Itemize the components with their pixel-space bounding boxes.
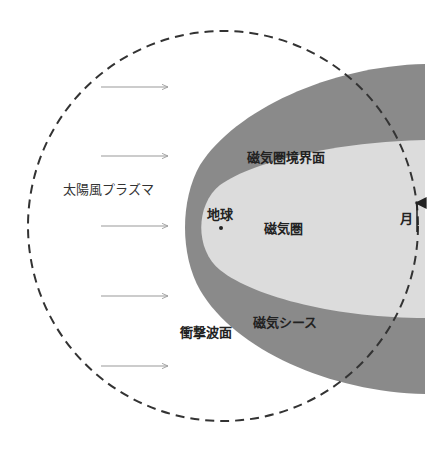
earth-dot: [219, 226, 223, 230]
magnetopause-label: 磁気圏境界面: [247, 151, 325, 165]
bow-shock-label: 衝撃波面: [180, 326, 232, 340]
magnetosphere-diagram: [0, 0, 439, 451]
magnetosphere-label: 磁気圏: [264, 222, 303, 236]
moon-label: 月: [400, 212, 413, 226]
solar-wind-label: 太陽風プラズマ: [63, 183, 154, 197]
earth-label: 地球: [207, 208, 233, 222]
solar-wind-arrows: [101, 87, 168, 366]
magnetosheath-label: 磁気シース: [253, 316, 317, 330]
